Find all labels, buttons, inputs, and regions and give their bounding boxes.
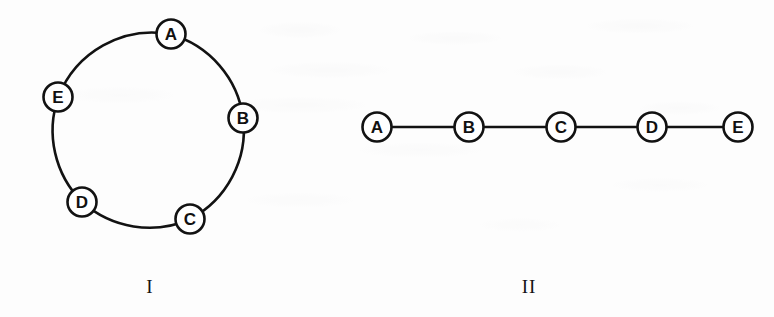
node-circle <box>176 205 205 234</box>
figure-stage: A B C D E <box>0 0 774 317</box>
node-i-c[interactable]: C <box>176 205 205 234</box>
node-circle <box>363 113 392 142</box>
node-circle <box>638 113 667 142</box>
node-i-e[interactable]: E <box>44 83 73 112</box>
node-i-d[interactable]: D <box>68 188 97 217</box>
node-circle <box>724 113 753 142</box>
node-ii-c[interactable]: C <box>547 113 576 142</box>
node-i-b[interactable]: B <box>229 104 258 133</box>
diagram-i-nodes: A B C D E <box>44 20 258 234</box>
node-circle <box>68 188 97 217</box>
node-circle <box>44 83 73 112</box>
diagram-i-group: A B C D E <box>44 20 258 234</box>
node-i-a[interactable]: A <box>157 20 186 49</box>
node-circle <box>547 113 576 142</box>
node-ii-b[interactable]: B <box>455 113 484 142</box>
diagram-ii-group: A B C D E <box>363 113 753 142</box>
edge-b-to-c <box>190 118 244 219</box>
graph-figure-canvas: A B C D E <box>0 0 774 317</box>
edge-c-to-d <box>82 202 190 228</box>
node-ii-d[interactable]: D <box>638 113 667 142</box>
edge-e-to-a <box>58 33 170 97</box>
caption-diagram-ii: II <box>522 276 537 298</box>
caption-diagram-i: I <box>146 276 153 298</box>
node-ii-a[interactable]: A <box>363 113 392 142</box>
edge-a-to-b <box>170 34 243 118</box>
node-circle <box>229 104 258 133</box>
node-circle <box>455 113 484 142</box>
node-ii-e[interactable]: E <box>724 113 753 142</box>
node-circle <box>157 20 186 49</box>
